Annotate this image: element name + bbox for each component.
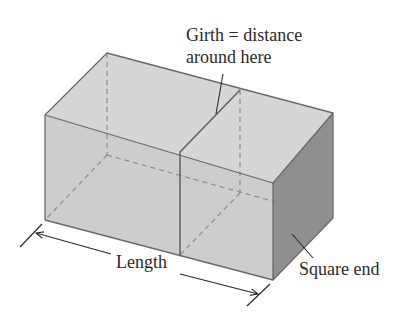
square-end-label: Square end — [299, 260, 379, 278]
length-label: Length — [116, 253, 167, 271]
girth-label: Girth = distance — [186, 26, 302, 44]
girth-label-continued: around here — [186, 48, 271, 66]
